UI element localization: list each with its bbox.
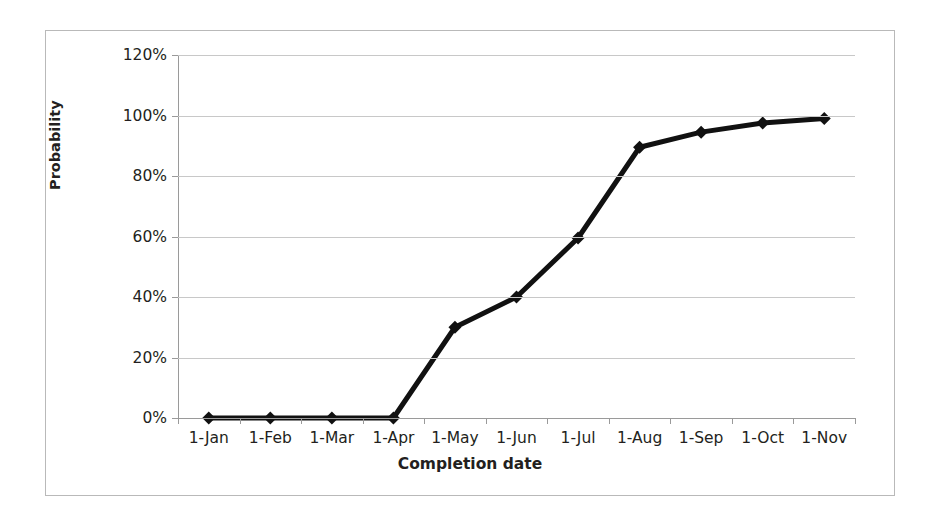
y-tick-label: 60% xyxy=(133,228,167,246)
gridline xyxy=(178,116,855,117)
x-tick-mark xyxy=(670,418,671,424)
x-tick-label: 1-Aug xyxy=(617,429,662,447)
y-tick-mark xyxy=(172,55,178,56)
x-axis-title: Completion date xyxy=(45,455,895,473)
data-point-marker xyxy=(818,112,831,125)
gridline xyxy=(178,358,855,359)
x-tick-label: 1-Feb xyxy=(249,429,292,447)
x-tick-mark xyxy=(178,418,179,424)
x-tick-label: 1-Sep xyxy=(679,429,724,447)
y-tick-label: 20% xyxy=(133,349,167,367)
data-point-marker xyxy=(756,117,769,130)
y-axis-title: Probability xyxy=(47,100,63,190)
gridline xyxy=(178,297,855,298)
y-tick-mark xyxy=(172,116,178,117)
plot-area: 0%20%40%60%80%100%120%1-Jan1-Feb1-Mar1-A… xyxy=(178,55,855,418)
x-tick-mark xyxy=(240,418,241,424)
x-tick-mark xyxy=(424,418,425,424)
x-tick-mark xyxy=(301,418,302,424)
x-tick-label: 1-Jan xyxy=(189,429,229,447)
data-point-marker xyxy=(695,126,708,139)
gridline xyxy=(178,237,855,238)
y-tick-label: 120% xyxy=(123,46,167,64)
x-tick-mark xyxy=(855,418,856,424)
x-tick-mark xyxy=(547,418,548,424)
x-tick-label: 1-Jul xyxy=(561,429,596,447)
x-tick-label: 1-Nov xyxy=(801,429,847,447)
x-tick-mark xyxy=(363,418,364,424)
y-tick-label: 40% xyxy=(133,288,167,306)
x-tick-mark xyxy=(793,418,794,424)
x-tick-mark xyxy=(732,418,733,424)
gridline xyxy=(178,55,855,56)
series-line xyxy=(209,119,824,418)
y-tick-mark xyxy=(172,297,178,298)
y-tick-mark xyxy=(172,358,178,359)
gridline xyxy=(178,418,855,419)
y-tick-label: 80% xyxy=(133,167,167,185)
y-tick-mark xyxy=(172,237,178,238)
x-tick-label: 1-Jun xyxy=(496,429,537,447)
x-tick-label: 1-May xyxy=(431,429,479,447)
y-tick-mark xyxy=(172,176,178,177)
y-tick-label: 100% xyxy=(123,107,167,125)
x-tick-mark xyxy=(609,418,610,424)
x-tick-label: 1-Apr xyxy=(372,429,414,447)
gridline xyxy=(178,176,855,177)
x-tick-label: 1-Oct xyxy=(741,429,784,447)
x-tick-label: 1-Mar xyxy=(310,429,355,447)
x-tick-mark xyxy=(486,418,487,424)
y-tick-label: 0% xyxy=(142,409,167,427)
